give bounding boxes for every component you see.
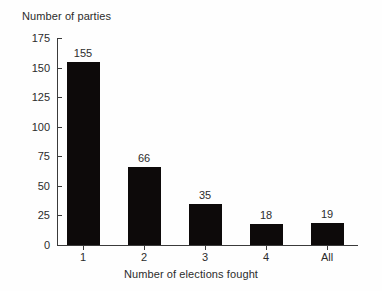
- y-axis-tick: [58, 186, 62, 187]
- bar: [311, 223, 344, 245]
- y-axis-tick: [58, 97, 62, 98]
- x-axis-tick-label: 1: [58, 252, 108, 263]
- y-axis-tick-label: 75: [16, 151, 50, 162]
- y-axis-tick-label: 100: [16, 122, 50, 133]
- y-axis-tick-labels: 0255075100125150175: [16, 38, 50, 245]
- y-axis-tick: [58, 215, 62, 216]
- x-axis-tick-label: 3: [180, 252, 230, 263]
- x-axis-title: Number of elections fought: [0, 268, 382, 280]
- bar: [189, 204, 222, 245]
- bar-value-label: 66: [114, 153, 174, 164]
- bar-value-label: 35: [175, 190, 235, 201]
- x-axis-tick-label: 2: [119, 252, 169, 263]
- bar-value-label: 18: [236, 210, 296, 221]
- bar: [128, 167, 161, 245]
- y-axis-tick-label: 175: [16, 33, 50, 44]
- y-axis-tick: [58, 38, 62, 39]
- bar: [250, 224, 283, 245]
- x-axis-tick: [327, 246, 328, 250]
- y-axis-tick: [58, 245, 62, 246]
- x-axis-tick: [266, 246, 267, 250]
- y-axis-tick-label: 0: [16, 240, 50, 251]
- x-axis-tick: [144, 246, 145, 250]
- y-axis-tick: [58, 127, 62, 128]
- x-axis-tick-label: All: [302, 252, 352, 263]
- y-axis-tick-label: 25: [16, 210, 50, 221]
- x-axis-tick: [83, 246, 84, 250]
- y-axis-tick: [58, 68, 62, 69]
- x-axis-tick-label: 4: [241, 252, 291, 263]
- x-axis-tick: [205, 246, 206, 250]
- bar-value-label: 19: [297, 209, 357, 220]
- y-axis-tick-label: 50: [16, 181, 50, 192]
- y-axis-tick: [58, 156, 62, 157]
- bar-value-label: 155: [53, 48, 113, 59]
- y-axis-title: Number of parties: [22, 10, 111, 22]
- plot-area: 0255075100125150175 1234All 15566351819: [57, 38, 358, 245]
- bar: [67, 62, 100, 245]
- y-axis-line: [57, 38, 58, 245]
- y-axis-tick-label: 150: [16, 63, 50, 74]
- bar-chart-figure: Number of parties 0255075100125150175 12…: [0, 0, 382, 291]
- x-axis-line: [57, 245, 358, 246]
- y-axis-tick-label: 125: [16, 92, 50, 103]
